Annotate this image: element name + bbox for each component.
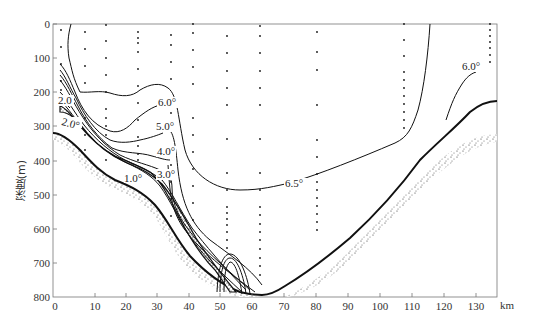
svg-text:500: 500 <box>34 189 51 201</box>
label-6-5: 6.5° <box>285 177 303 189</box>
svg-text:30: 30 <box>152 300 164 312</box>
svg-text:40: 40 <box>184 300 196 312</box>
svg-text:300: 300 <box>34 120 51 132</box>
svg-text:700: 700 <box>34 257 51 269</box>
svg-text:60: 60 <box>247 300 259 312</box>
label-3-0: 3.0° <box>157 168 175 180</box>
label-6-0: 6.0° <box>158 96 176 108</box>
svg-text:70: 70 <box>279 300 291 312</box>
label-5-0: 5.0° <box>156 120 174 132</box>
svg-text:20: 20 <box>121 300 133 312</box>
svg-text:400: 400 <box>34 155 51 167</box>
svg-text:100: 100 <box>34 52 51 64</box>
svg-text:110: 110 <box>404 300 421 312</box>
svg-text:600: 600 <box>34 223 51 235</box>
svg-text:100: 100 <box>372 300 389 312</box>
svg-text:10: 10 <box>90 300 102 312</box>
svg-text:0: 0 <box>52 300 58 312</box>
svg-text:200: 200 <box>34 86 51 98</box>
svg-text:130: 130 <box>468 300 485 312</box>
svg-text:50: 50 <box>215 300 227 312</box>
y-axis-title: 深度(m) <box>14 160 30 201</box>
plot-frame <box>53 24 497 297</box>
contour-chart: 2.0 2.0° 1.0° 3.0° 4.0° 5.0° 6.0° 6.5° 6… <box>0 0 545 329</box>
svg-text:80: 80 <box>311 300 323 312</box>
x-axis-unit: km <box>500 299 514 311</box>
label-6-0-right: 6.0° <box>462 60 480 72</box>
svg-text:90: 90 <box>343 300 355 312</box>
x-axis-labels: 0 10 20 30 40 50 60 70 80 90 100 110 120… <box>52 300 485 312</box>
svg-text:120: 120 <box>436 300 453 312</box>
label-4-0: 4.0° <box>157 145 175 157</box>
svg-text:0: 0 <box>45 18 51 30</box>
label-2-0-upper: 2.0 <box>58 94 72 106</box>
y-axis-labels: 0 100 200 300 400 500 600 700 800 <box>34 18 51 303</box>
label-1-0: 1.0° <box>124 172 142 184</box>
svg-text:800: 800 <box>34 291 51 303</box>
